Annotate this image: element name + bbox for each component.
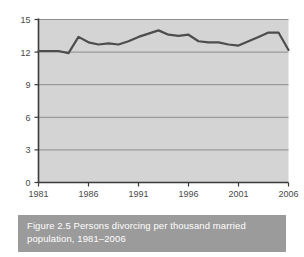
x-tick-label-1991: 1991 (128, 189, 148, 199)
x-tick-label-2001: 2001 (228, 189, 248, 199)
y-tick-label-12: 12 (20, 48, 30, 58)
x-tick-label-1981: 1981 (28, 189, 48, 199)
plot-area (39, 20, 289, 183)
plot-background (39, 20, 289, 183)
y-tick-label-0: 0 (25, 178, 30, 188)
figure-caption-bar: Figure 2.5 Persons divorcing per thousan… (18, 215, 286, 252)
y-tick-label-15: 15 (20, 15, 30, 25)
y-tick-label-6: 6 (25, 113, 30, 123)
x-tick-label-1986: 1986 (78, 189, 98, 199)
x-tick-label-2006: 2006 (278, 189, 298, 199)
y-tick-label-9: 9 (25, 80, 30, 90)
figure-container: 03691215 198119861991199620012006 Figure… (0, 0, 304, 257)
x-tick-label-1996: 1996 (178, 189, 198, 199)
y-tick-label-3: 3 (25, 145, 30, 155)
figure-caption-text: Figure 2.5 Persons divorcing per thousan… (27, 220, 277, 245)
x-axis-tick-labels: 198119861991199620012006 (28, 189, 298, 199)
y-axis-tick-labels: 03691215 (20, 15, 30, 188)
